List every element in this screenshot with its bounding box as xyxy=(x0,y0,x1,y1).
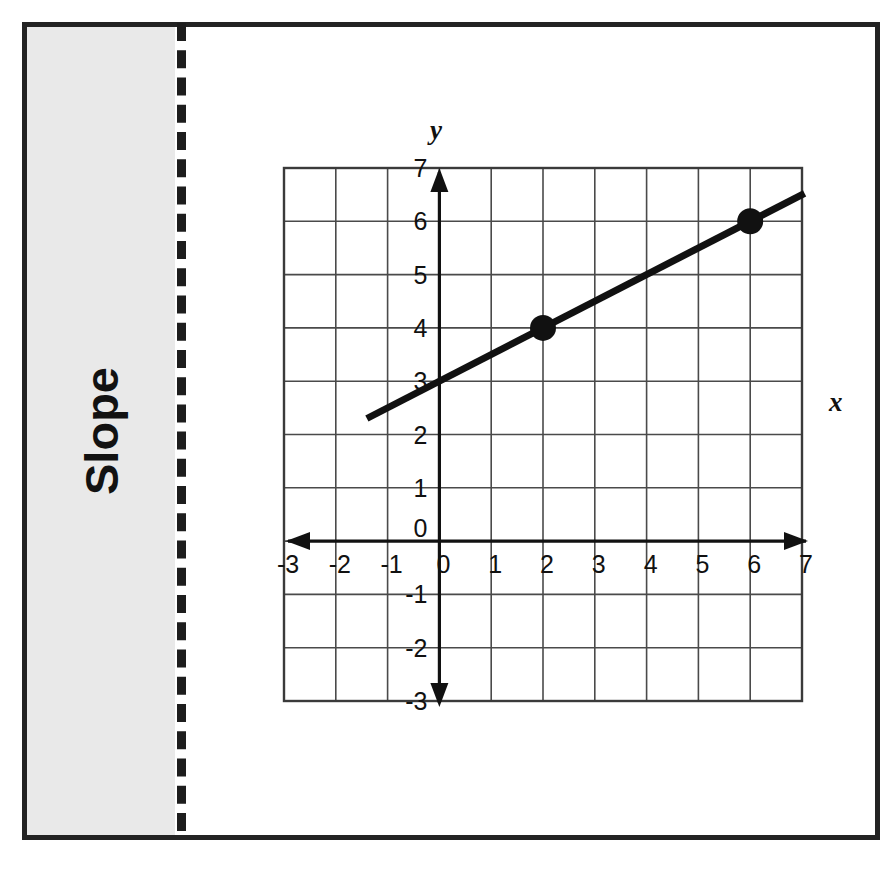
y-tick-label: 3 xyxy=(413,367,427,395)
x-tick-label: 2 xyxy=(540,550,554,578)
y-tick-label: 6 xyxy=(413,207,427,235)
axes xyxy=(286,168,808,707)
grid-lines xyxy=(284,168,802,701)
data-point-marker xyxy=(530,315,556,341)
sidebar-panel: Slope xyxy=(27,27,175,835)
x-tick-label: 0 xyxy=(436,550,450,578)
y-tick-label: 1 xyxy=(413,474,427,502)
x-tick-label: 5 xyxy=(695,550,709,578)
worksheet-frame: Slope -3-2-101234567 -3-2-101234567 x y xyxy=(22,22,880,840)
y-axis-label: y xyxy=(427,115,443,145)
y-tick-label: 7 xyxy=(413,154,427,182)
x-tick-label: -1 xyxy=(380,550,402,578)
x-axis-tick-labels: -3-2-101234567 xyxy=(277,550,813,578)
y-tick-label: 0 xyxy=(413,514,427,542)
x-tick-label: 3 xyxy=(592,550,606,578)
x-axis-arrow-left xyxy=(286,532,310,550)
y-tick-label: -1 xyxy=(405,580,427,608)
x-tick-label: -3 xyxy=(277,550,299,578)
x-tick-label: 1 xyxy=(488,550,502,578)
y-axis-arrow-up xyxy=(430,168,448,192)
y-tick-label: -2 xyxy=(405,634,427,662)
page-title: Slope xyxy=(74,367,129,495)
y-tick-label: 2 xyxy=(413,421,427,449)
graph-area: -3-2-101234567 -3-2-101234567 x y xyxy=(185,27,875,835)
x-tick-label: 7 xyxy=(799,550,813,578)
y-tick-label: 5 xyxy=(413,261,427,289)
coordinate-plane-svg: -3-2-101234567 -3-2-101234567 x y xyxy=(185,27,885,835)
x-tick-label: -2 xyxy=(329,550,351,578)
y-tick-label: 4 xyxy=(413,314,427,342)
dashed-divider xyxy=(175,27,185,835)
data-point-marker xyxy=(737,208,763,234)
x-axis-label: x xyxy=(828,387,843,417)
x-axis-arrow-right xyxy=(784,532,808,550)
y-axis-arrow-down xyxy=(430,683,448,707)
x-tick-label: 4 xyxy=(644,550,658,578)
x-tick-label: 6 xyxy=(747,550,761,578)
y-tick-label: -3 xyxy=(405,687,427,715)
